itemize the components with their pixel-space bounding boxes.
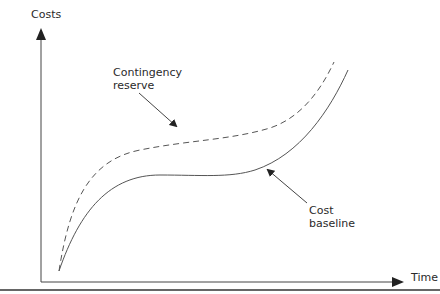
cost-baseline-curve [59, 70, 348, 271]
contingency-label-line1: Contingency [113, 66, 182, 79]
x-axis-label: Time [411, 271, 438, 284]
cost-curve-diagram [0, 0, 440, 294]
baseline-label-line1: Cost [309, 204, 333, 217]
baseline-label-line2: baseline [309, 217, 355, 230]
contingency-arrow [139, 93, 176, 126]
contingency-reserve-curve [59, 62, 334, 271]
baseline-arrow [268, 170, 307, 203]
y-axis-label: Costs [31, 8, 61, 21]
contingency-label-line2: reserve [113, 79, 154, 92]
